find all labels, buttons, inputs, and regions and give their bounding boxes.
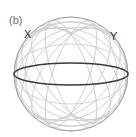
great-circle-arc-group: [0, 9, 136, 137]
panel-label: (b): [9, 14, 22, 26]
axis-label-y: Y: [110, 30, 118, 42]
equator-ellipse: [14, 63, 128, 85]
great-circle-arc: [14, 44, 128, 104]
axis-label-x: X: [24, 28, 32, 40]
sphere-diagram: (b) X Y: [0, 0, 136, 137]
figure-panel-b: (b) X Y: [0, 0, 136, 137]
